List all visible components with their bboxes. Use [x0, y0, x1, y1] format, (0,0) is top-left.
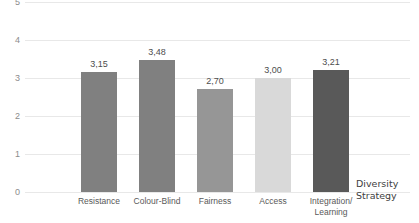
bar-column[interactable]: 2,70 — [197, 0, 233, 192]
bar-column[interactable]: 3,21 — [313, 0, 349, 192]
bar-value-label: 2,70 — [185, 76, 245, 86]
x-axis-title-line-2: Strategy — [356, 190, 418, 202]
bar[interactable] — [81, 72, 117, 192]
x-axis-title-line-1: Diversity — [356, 178, 418, 190]
bar-value-label: 3,48 — [127, 47, 187, 57]
bar[interactable] — [197, 89, 233, 192]
gridline — [25, 192, 410, 193]
y-axis-tick-label: 3 — [0, 74, 20, 83]
bar-value-label: 3,21 — [301, 57, 361, 67]
y-axis-tick-label: 1 — [0, 150, 20, 159]
bar-chart: 012345 3,153,482,703,003,21 ResistanceCo… — [0, 0, 419, 223]
bar[interactable] — [313, 70, 349, 192]
bar-value-label: 3,15 — [69, 59, 129, 69]
y-axis-tick-label: 0 — [0, 188, 20, 197]
x-axis-category-label-line: Learning — [291, 207, 371, 218]
y-axis-tick-label: 5 — [0, 0, 20, 7]
bar-column[interactable]: 3,00 — [255, 0, 291, 192]
y-axis-tick-label: 2 — [0, 112, 20, 121]
bar-column[interactable]: 3,48 — [139, 0, 175, 192]
bar-column[interactable]: 3,15 — [81, 0, 117, 192]
x-axis-title: Diversity Strategy — [356, 178, 418, 202]
plot-area: 3,153,482,703,003,21 — [25, 0, 410, 192]
bar[interactable] — [255, 78, 291, 192]
bar[interactable] — [139, 60, 175, 192]
bar-value-label: 3,00 — [243, 65, 303, 75]
y-axis-tick-label: 4 — [0, 36, 20, 45]
